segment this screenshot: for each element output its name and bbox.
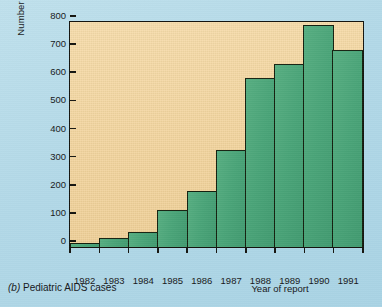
y-axis-tick-label: 0 xyxy=(61,235,66,247)
y-axis-title-label: Number of cases xyxy=(14,0,28,74)
y-axis-tick-mark xyxy=(70,156,76,158)
plot-area: 0100200300400500600700800 19821983198419… xyxy=(69,21,364,248)
bar xyxy=(245,78,276,247)
x-axis-tick-mark xyxy=(362,247,364,253)
x-axis-tick-mark xyxy=(333,247,335,253)
y-axis-tick: 400 xyxy=(42,123,70,135)
y-axis-tick-mark xyxy=(70,184,76,186)
bar xyxy=(187,191,218,247)
y-axis-tick: 300 xyxy=(42,151,70,163)
y-axis-tick-label: 800 xyxy=(50,10,66,22)
y-axis-title: Number of cases xyxy=(14,0,28,74)
x-axis-tick-mark xyxy=(128,247,130,253)
x-axis-title-label: Year of report xyxy=(251,283,308,294)
y-axis-tick-label: 100 xyxy=(50,207,66,219)
y-axis-tick: 700 xyxy=(42,38,70,50)
figure-caption-text: Pediatric AIDS cases xyxy=(23,282,116,293)
y-axis-tick-mark xyxy=(70,100,76,102)
bar xyxy=(216,150,247,247)
bar xyxy=(99,238,130,247)
x-axis-tick-mark xyxy=(186,247,188,253)
y-axis-tick-mark xyxy=(70,43,76,45)
y-axis-tick: 800 xyxy=(42,10,70,22)
figure-pediatric-aids-cases: Number of cases 010020030040050060070080… xyxy=(0,0,382,307)
x-axis-tick-mark xyxy=(99,247,101,253)
x-axis-tick-mark xyxy=(304,247,306,253)
y-axis-tick-label: 300 xyxy=(50,151,66,163)
bar xyxy=(332,50,363,247)
y-axis-tick-mark xyxy=(70,240,76,242)
bar xyxy=(70,243,101,247)
y-axis-tick-mark xyxy=(70,15,76,17)
y-axis-tick: 0 xyxy=(42,235,70,247)
y-axis-tick: 100 xyxy=(42,207,70,219)
bar xyxy=(157,210,188,247)
y-axis-tick-label: 400 xyxy=(50,123,66,135)
figure-caption: (b) Pediatric AIDS cases xyxy=(8,282,116,293)
bar xyxy=(274,64,305,247)
bar xyxy=(128,232,159,247)
bar xyxy=(303,25,334,247)
x-axis-tick-mark xyxy=(274,247,276,253)
y-axis-tick-label: 700 xyxy=(50,38,66,50)
y-axis-tick-mark xyxy=(70,212,76,214)
y-axis-tick-mark xyxy=(70,71,76,73)
figure-caption-tag: (b) xyxy=(8,282,20,293)
x-axis-tick-mark xyxy=(157,247,159,253)
x-axis-tick-mark xyxy=(69,247,71,253)
x-axis-tick-mark xyxy=(245,247,247,253)
bar-series xyxy=(70,22,363,247)
x-axis-title: Year of report xyxy=(200,283,360,294)
y-axis-tick: 600 xyxy=(42,66,70,78)
y-axis-tick-label: 200 xyxy=(50,179,66,191)
y-axis-tick-label: 600 xyxy=(50,66,66,78)
y-axis-tick: 200 xyxy=(42,179,70,191)
y-axis-tick-label: 500 xyxy=(50,94,66,106)
y-axis-tick-mark xyxy=(70,128,76,130)
x-axis-tick-mark xyxy=(216,247,218,253)
y-axis-tick: 500 xyxy=(42,94,70,106)
